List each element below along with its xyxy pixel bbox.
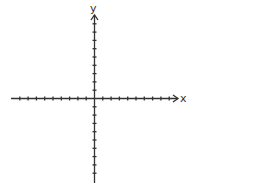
y-axis-label: y [90, 2, 97, 15]
coordinate-plane: x y [0, 0, 258, 192]
x-axis-label: x [180, 92, 187, 105]
